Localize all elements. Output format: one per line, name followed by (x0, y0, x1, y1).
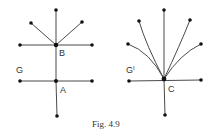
vertex (54, 8, 58, 12)
edge-b-upper-left (31, 23, 56, 45)
vertex-c (162, 77, 167, 82)
vertex (162, 8, 166, 12)
graph-label-g: G (16, 65, 23, 75)
graph-label-g-prime: GI (126, 65, 135, 75)
vertex (137, 19, 141, 23)
vertex (188, 18, 192, 22)
edge-c-upper-right (164, 20, 190, 79)
graph-g-prime: GI C (126, 8, 203, 117)
edge-c-bottom (164, 79, 165, 115)
figure-caption: Fig. 4.9 (92, 119, 120, 129)
vertex (29, 21, 33, 25)
graph-label-g-prime-base: G (126, 65, 133, 75)
vertex (163, 113, 167, 117)
edge-c-mid-left (128, 44, 164, 79)
vertex-label-c: C (168, 84, 175, 94)
edge-b-upper-right (56, 22, 82, 45)
vertex (199, 78, 203, 82)
vertex (18, 79, 22, 83)
edge-c-mid-right (164, 44, 201, 79)
vertex (18, 43, 22, 47)
vertex (80, 20, 84, 24)
vertex (90, 43, 94, 47)
figure-canvas: B G A GI C Fig. 4.9 (0, 0, 219, 137)
edge-c-upper-left (139, 21, 164, 79)
vertex-b (54, 43, 58, 47)
vertex-label-b: B (59, 48, 65, 58)
graph-g: B G A (16, 8, 94, 118)
vertex (90, 79, 94, 83)
vertex (199, 42, 203, 46)
vertex (55, 114, 59, 118)
vertex-a (54, 79, 58, 83)
graph-label-g-prime-superscript: I (133, 65, 135, 71)
vertex (127, 79, 131, 83)
vertex-label-a: A (60, 85, 66, 95)
vertex (126, 42, 130, 46)
edge-a-bottom (56, 81, 57, 116)
